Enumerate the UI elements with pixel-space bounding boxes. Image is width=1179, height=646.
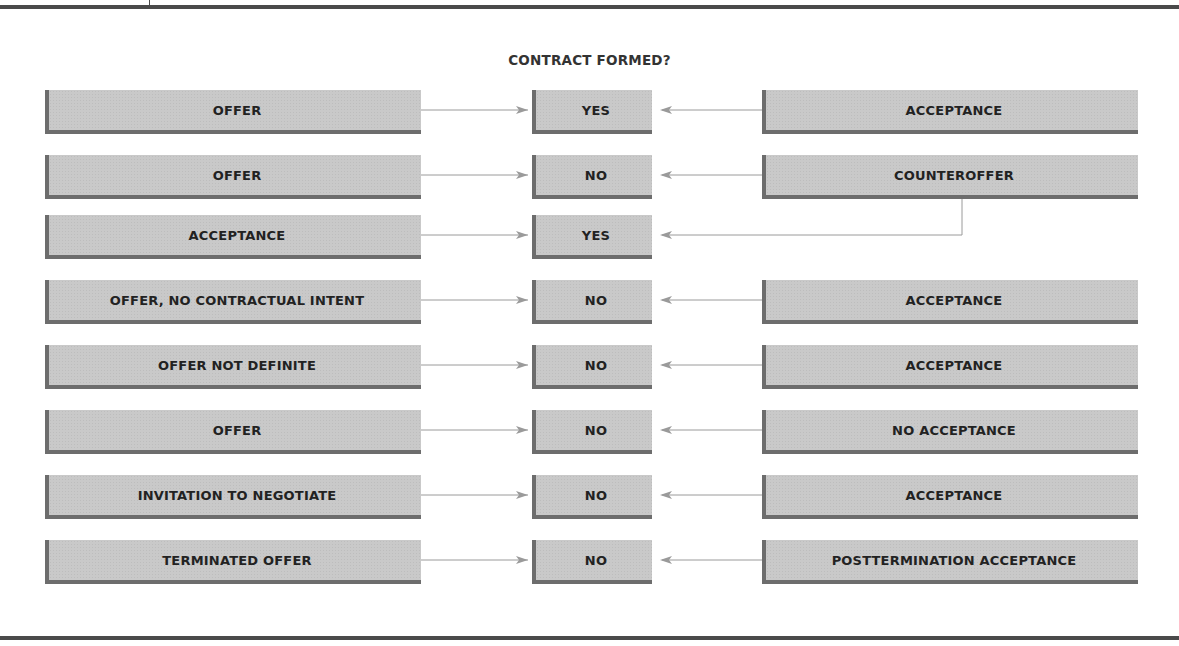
row-1-result-label: YES xyxy=(578,103,610,118)
row-1-result-box: YES xyxy=(532,90,652,130)
row-6-result-box: NO xyxy=(532,410,652,450)
row-4-left-box: OFFER, NO CONTRACTUAL INTENT xyxy=(45,280,421,320)
row-7-right-arrowhead-icon xyxy=(660,491,672,499)
row-7-left-arrowhead-icon xyxy=(516,491,528,499)
row-4-result-label: NO xyxy=(581,293,607,308)
row-1-right-arrowhead-icon xyxy=(660,106,672,114)
row-8-left-box: TERMINATED OFFER xyxy=(45,540,421,580)
row-3-left-label: ACCEPTANCE xyxy=(185,228,286,243)
bottom-rule xyxy=(0,636,1179,640)
row-3-right-arrowhead-icon xyxy=(660,231,672,239)
row-8-right-arrowhead-icon xyxy=(660,556,672,564)
row-1-left-box: OFFER xyxy=(45,90,421,130)
row-3-result-label: YES xyxy=(578,228,610,243)
row-2-left-box: OFFER xyxy=(45,155,421,195)
row-2-left-arrowhead-icon xyxy=(516,171,528,179)
row-4-result-box: NO xyxy=(532,280,652,320)
row-1-right-box: ACCEPTANCE xyxy=(762,90,1138,130)
row-7-right-box: ACCEPTANCE xyxy=(762,475,1138,515)
row-6-left-arrowhead-icon xyxy=(516,426,528,434)
counteroffer-to-acceptance-connector xyxy=(662,199,962,235)
row-6-left-box: OFFER xyxy=(45,410,421,450)
row-5-result-label: NO xyxy=(581,358,607,373)
row-1-left-label: OFFER xyxy=(209,103,262,118)
row-5-right-arrowhead-icon xyxy=(660,361,672,369)
row-4-right-arrowhead-icon xyxy=(660,296,672,304)
row-2-result-label: NO xyxy=(581,168,607,183)
row-7-result-label: NO xyxy=(581,488,607,503)
row-2-right-arrowhead-icon xyxy=(660,171,672,179)
row-1-left-arrowhead-icon xyxy=(516,106,528,114)
diagram-title: CONTRACT FORMED? xyxy=(0,52,1179,68)
row-4-right-box: ACCEPTANCE xyxy=(762,280,1138,320)
row-1-right-label: ACCEPTANCE xyxy=(902,103,1003,118)
top-rule-tick xyxy=(149,0,150,7)
row-6-right-label: NO ACCEPTANCE xyxy=(888,423,1016,438)
row-5-result-box: NO xyxy=(532,345,652,385)
row-4-left-label: OFFER, NO CONTRACTUAL INTENT xyxy=(106,293,365,308)
row-4-left-arrowhead-icon xyxy=(516,296,528,304)
row-8-left-label: TERMINATED OFFER xyxy=(158,553,311,568)
row-7-right-label: ACCEPTANCE xyxy=(902,488,1003,503)
row-5-right-label: ACCEPTANCE xyxy=(902,358,1003,373)
row-5-left-arrowhead-icon xyxy=(516,361,528,369)
row-7-result-box: NO xyxy=(532,475,652,515)
row-7-left-label: INVITATION TO NEGOTIATE xyxy=(134,488,337,503)
row-3-left-box: ACCEPTANCE xyxy=(45,215,421,255)
row-8-right-label: POSTTERMINATION ACCEPTANCE xyxy=(828,553,1077,568)
row-8-left-arrowhead-icon xyxy=(516,556,528,564)
row-8-result-box: NO xyxy=(532,540,652,580)
row-8-right-box: POSTTERMINATION ACCEPTANCE xyxy=(762,540,1138,580)
row-5-left-box: OFFER NOT DEFINITE xyxy=(45,345,421,385)
row-8-result-label: NO xyxy=(581,553,607,568)
row-6-left-label: OFFER xyxy=(209,423,262,438)
row-3-left-arrowhead-icon xyxy=(516,231,528,239)
top-rule xyxy=(0,5,1179,9)
row-2-left-label: OFFER xyxy=(209,168,262,183)
row-5-right-box: ACCEPTANCE xyxy=(762,345,1138,385)
row-4-right-label: ACCEPTANCE xyxy=(902,293,1003,308)
row-6-right-arrowhead-icon xyxy=(660,426,672,434)
row-6-right-box: NO ACCEPTANCE xyxy=(762,410,1138,450)
row-7-left-box: INVITATION TO NEGOTIATE xyxy=(45,475,421,515)
row-2-result-box: NO xyxy=(532,155,652,195)
row-6-result-label: NO xyxy=(581,423,607,438)
row-3-result-box: YES xyxy=(532,215,652,255)
row-5-left-label: OFFER NOT DEFINITE xyxy=(154,358,316,373)
row-2-right-box: COUNTEROFFER xyxy=(762,155,1138,195)
row-2-right-label: COUNTEROFFER xyxy=(890,168,1014,183)
